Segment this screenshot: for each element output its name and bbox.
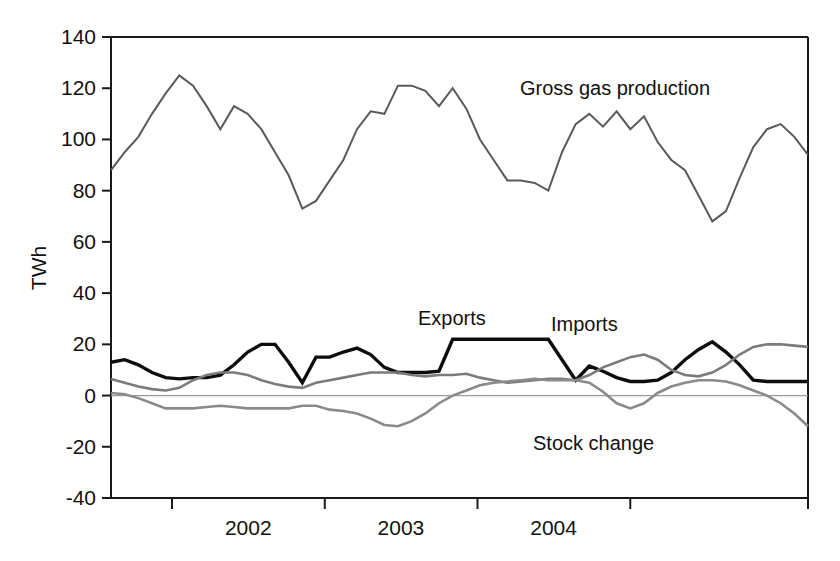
y-tick-label-60: 60 xyxy=(73,230,96,253)
x-axis-tick-labels: 200220032004 xyxy=(225,516,577,539)
y-tick-label-40: 40 xyxy=(73,281,96,304)
annotation-imports: Imports xyxy=(551,313,618,335)
annotation-exports: Exports xyxy=(418,307,486,329)
annotation-stock-change: Stock change xyxy=(533,432,654,454)
y-axis-title: TWh xyxy=(27,246,50,290)
plot-frame xyxy=(111,37,808,498)
x-tick-label-2003: 2003 xyxy=(378,516,425,539)
y-tick-label--20: -20 xyxy=(66,435,96,458)
y-tick-label-80: 80 xyxy=(73,179,96,202)
chart-container: 140120100806040200-20-40 200220032004 Gr… xyxy=(0,0,840,561)
annotation-gross-gas-production: Gross gas production xyxy=(520,77,710,99)
x-axis-ticks xyxy=(172,498,808,509)
x-tick-label-2004: 2004 xyxy=(530,516,577,539)
series-lines xyxy=(111,75,808,426)
y-tick-label-100: 100 xyxy=(61,127,96,150)
y-tick-label-140: 140 xyxy=(61,25,96,48)
y-tick-label-20: 20 xyxy=(73,332,96,355)
y-tick-label-0: 0 xyxy=(84,384,96,407)
series-line-stock-change xyxy=(111,379,808,426)
line-chart: 140120100806040200-20-40 200220032004 Gr… xyxy=(0,0,840,561)
y-axis-tick-labels: 140120100806040200-20-40 xyxy=(61,25,96,509)
axis-frame-path xyxy=(111,37,808,498)
series-line-imports xyxy=(111,344,808,390)
y-tick-label-120: 120 xyxy=(61,76,96,99)
y-tick-label--40: -40 xyxy=(66,486,96,509)
series-annotation-labels: Gross gas productionExportsImportsStock … xyxy=(418,77,710,454)
y-axis-ticks xyxy=(102,37,111,498)
x-tick-label-2002: 2002 xyxy=(225,516,272,539)
